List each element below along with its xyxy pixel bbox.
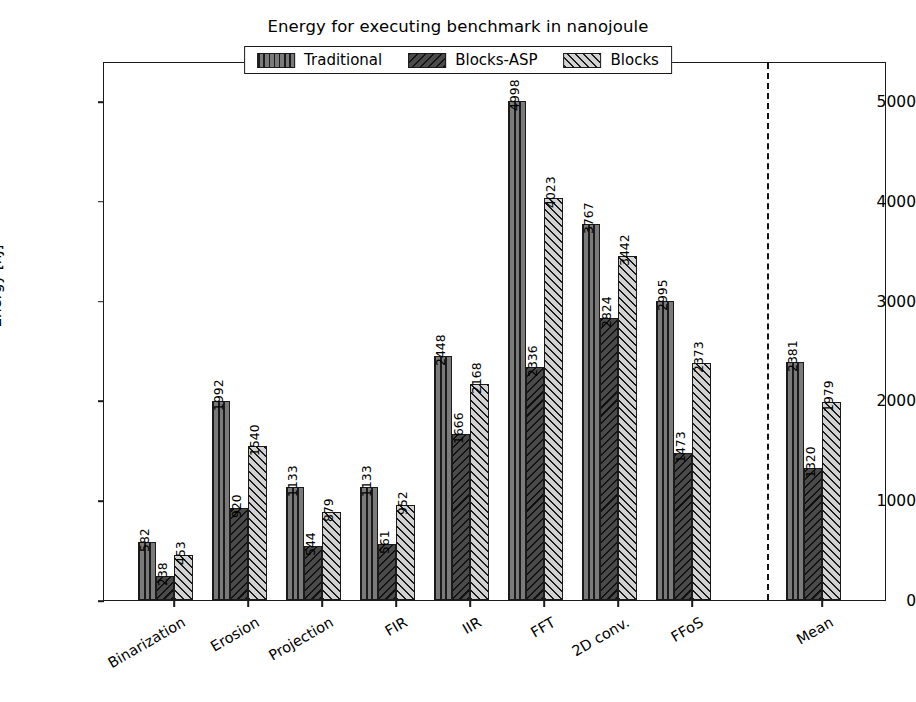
x-tick-label-2d-conv-: 2D conv. <box>570 614 633 659</box>
bar-traditional-fir: 1133 <box>360 487 378 600</box>
chart-figure: Energy for executing benchmark in nanojo… <box>0 0 916 702</box>
legend-label: Blocks <box>611 51 659 69</box>
mean-separator-line <box>767 63 769 600</box>
x-tick-label-iir: IIR <box>460 614 484 637</box>
x-tick-mark <box>248 601 250 607</box>
bar-value-label: 2336 <box>525 345 540 377</box>
bar-value-label: 1320 <box>803 447 818 479</box>
bar-blocks-ffos: 2373 <box>692 363 710 600</box>
bar-value-label: 2168 <box>469 362 484 394</box>
bar-value-label: 2448 <box>433 334 448 366</box>
bar-value-label: 2373 <box>691 342 706 374</box>
bar-blocks-asp-binarization: 238 <box>156 576 174 600</box>
x-tick-label-mean: Mean <box>794 614 836 648</box>
bar-blocks-iir: 2168 <box>470 384 488 600</box>
x-tick-label-projection: Projection <box>266 614 336 664</box>
bar-value-label: 1666 <box>451 412 466 444</box>
bar-value-label: 238 <box>155 563 170 587</box>
bar-value-label: 2995 <box>655 280 670 312</box>
bar-blocks-asp-fft: 2336 <box>526 367 544 600</box>
x-tick-label-erosion: Erosion <box>208 614 262 655</box>
bar-traditional-projection: 1133 <box>286 487 304 600</box>
legend-swatch-icon <box>257 53 295 68</box>
bar-traditional-ffos: 2995 <box>656 301 674 600</box>
x-tick-mark <box>692 601 694 607</box>
bar-value-label: 3442 <box>617 235 632 267</box>
bar-blocks-projection: 879 <box>322 512 340 600</box>
bar-traditional-iir: 2448 <box>434 356 452 600</box>
x-tick-mark <box>174 601 176 607</box>
legend-label: Blocks-ASP <box>455 51 537 69</box>
bar-value-label: 561 <box>377 530 392 554</box>
x-tick-mark <box>396 601 398 607</box>
bar-blocks-binarization: 453 <box>174 555 192 600</box>
chart-legend: TraditionalBlocks-ASPBlocks <box>244 46 672 74</box>
bar-blocks-asp-iir: 1666 <box>452 434 470 600</box>
bar-value-label: 544 <box>303 532 318 556</box>
bar-blocks-fir: 952 <box>396 505 414 600</box>
bar-blocks-asp-fir: 561 <box>378 544 396 600</box>
bar-blocks-erosion: 1540 <box>248 446 266 600</box>
x-tick-mark <box>822 601 824 607</box>
x-tick-mark <box>322 601 324 607</box>
y-tick-label: 4000 <box>828 193 916 211</box>
y-axis-label: Energy [nJ] <box>0 245 5 328</box>
legend-entry-traditional[interactable]: Traditional <box>257 51 382 69</box>
bar-value-label: 952 <box>395 491 410 515</box>
bar-value-label: 879 <box>321 499 336 523</box>
bar-value-label: 4023 <box>543 177 558 209</box>
y-tick-mark <box>98 600 104 602</box>
x-tick-label-fir: FIR <box>383 614 411 639</box>
plot-area: 5822384531992920154011335448791133561952… <box>103 62 886 601</box>
bar-value-label: 2381 <box>785 341 800 373</box>
bar-traditional-2d-conv-: 3767 <box>582 224 600 600</box>
bar-value-label: 4998 <box>507 80 522 112</box>
bar-value-label: 1540 <box>247 425 262 457</box>
y-tick-label: 3000 <box>828 293 916 311</box>
bar-value-label: 920 <box>229 495 244 519</box>
x-tick-mark <box>470 601 472 607</box>
legend-label: Traditional <box>304 51 382 69</box>
bar-blocks-asp-ffos: 1473 <box>674 453 692 600</box>
bar-blocks-asp-2d-conv-: 2824 <box>600 318 618 600</box>
x-tick-label-fft: FFT <box>528 614 558 641</box>
y-tick-mark <box>98 201 104 203</box>
bar-blocks-fft: 4023 <box>544 198 562 600</box>
y-tick-label: 5000 <box>828 93 916 111</box>
legend-entry-blocks[interactable]: Blocks <box>564 51 659 69</box>
x-tick-label-ffos: FFoS <box>669 614 707 645</box>
bar-value-label: 1133 <box>359 465 374 497</box>
bar-value-label: 3767 <box>581 202 596 234</box>
y-tick-label: 2000 <box>828 392 916 410</box>
x-tick-label-binarization: Binarization <box>106 614 189 671</box>
bar-blocks-2d-conv-: 3442 <box>618 256 636 600</box>
y-tick-mark <box>98 301 104 303</box>
bar-value-label: 2824 <box>599 297 614 329</box>
y-tick-label: 1000 <box>828 492 916 510</box>
bar-value-label: 1473 <box>673 431 688 463</box>
bar-traditional-mean: 2381 <box>786 362 804 600</box>
x-tick-mark <box>544 601 546 607</box>
bar-blocks-asp-erosion: 920 <box>230 508 248 600</box>
y-tick-mark <box>98 101 104 103</box>
bar-traditional-erosion: 1992 <box>212 401 230 600</box>
bar-value-label: 1992 <box>211 380 226 412</box>
y-tick-mark <box>98 500 104 502</box>
legend-entry-blocks-asp[interactable]: Blocks-ASP <box>408 51 537 69</box>
bar-value-label: 1133 <box>285 465 300 497</box>
bar-value-label: 453 <box>173 541 188 565</box>
bar-traditional-binarization: 582 <box>138 542 156 600</box>
bar-traditional-fft: 4998 <box>508 101 526 600</box>
bar-blocks-asp-mean: 1320 <box>804 468 822 600</box>
y-tick-mark <box>98 401 104 403</box>
bar-blocks-asp-projection: 544 <box>304 546 322 600</box>
x-tick-mark <box>618 601 620 607</box>
y-tick-label: 0 <box>828 592 916 610</box>
legend-swatch-icon <box>408 53 446 68</box>
bar-value-label: 582 <box>137 528 152 552</box>
chart-title: Energy for executing benchmark in nanojo… <box>0 17 916 36</box>
plot-inner: 5822384531992920154011335448791133561952… <box>104 63 885 600</box>
legend-swatch-icon <box>564 53 602 68</box>
